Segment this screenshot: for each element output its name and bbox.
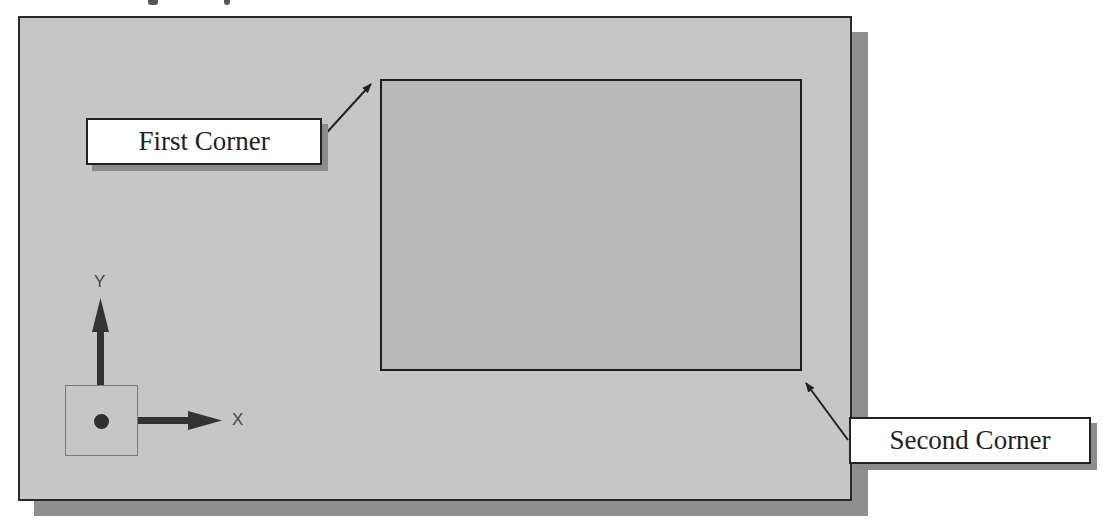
first-corner-callout: First Corner [86, 118, 322, 165]
first-corner-pointer-arrow [320, 84, 371, 140]
ucs-y-label: Y [94, 272, 105, 292]
first-corner-label: First Corner [138, 126, 269, 157]
ucs-origin-dot-icon [94, 414, 109, 429]
ucs-y-arrow-icon [92, 298, 109, 385]
ucs-x-label: X [232, 410, 243, 430]
second-corner-callout: Second Corner [849, 417, 1091, 464]
ucs-x-arrow-icon [137, 411, 222, 430]
second-corner-label: Second Corner [889, 425, 1050, 456]
second-corner-pointer-arrow [806, 383, 848, 440]
